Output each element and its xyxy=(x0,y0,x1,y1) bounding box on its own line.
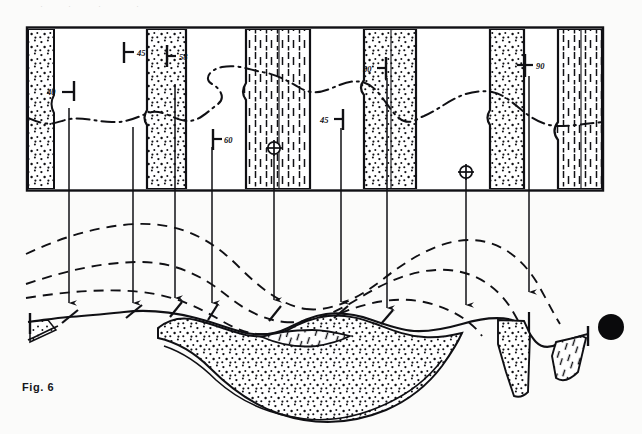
dip-value-58: 58 xyxy=(179,52,188,62)
map-unit-u11-dash xyxy=(555,29,603,189)
map-unit-u7-stipple xyxy=(361,29,416,189)
dip-value-45b: 45 xyxy=(319,115,329,125)
dip-value-90: 90 xyxy=(536,61,545,71)
dip-value-60: 60 xyxy=(224,135,233,145)
geologic-map-panel: 40 45 58 60 xyxy=(27,28,603,191)
dip-value-50: 50 xyxy=(363,64,372,74)
figure-container: · · · · xyxy=(0,0,642,434)
black-dot-marker xyxy=(598,314,624,340)
map-unit-u9-stipple xyxy=(488,29,525,189)
dip-value-40: 40 xyxy=(46,87,56,97)
figure-svg: 40 45 58 60 xyxy=(0,0,642,434)
sec-dash-right xyxy=(552,336,586,380)
sec-tick-5 xyxy=(269,306,281,321)
sec-stipple-left-end xyxy=(30,320,56,342)
map-unit-u1-stipple xyxy=(28,29,54,189)
map-unit-u5-dash xyxy=(243,29,310,189)
figure-caption: Fig. 6 xyxy=(22,381,54,393)
cross-section-panel xyxy=(26,224,588,422)
sec-tick-7 xyxy=(381,310,393,324)
dip-value-45: 45 xyxy=(136,48,146,58)
sec-stipple-right xyxy=(498,320,530,397)
